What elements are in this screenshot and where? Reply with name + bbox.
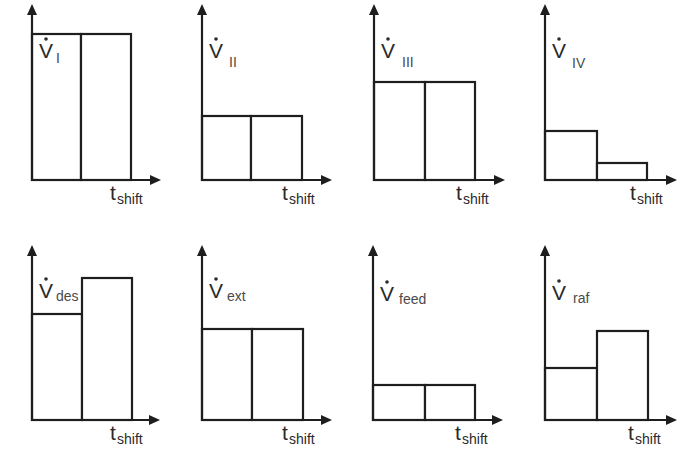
bar-III-2 (425, 82, 475, 180)
bar-des-2 (82, 278, 132, 420)
panel-III: VIIItshift (369, 4, 505, 207)
panel-IV: VIVtshift (540, 4, 677, 207)
y-axis-label: V (39, 39, 53, 62)
panels-group: VItshiftVIItshiftVIIItshiftVIVtshiftVdes… (27, 4, 677, 447)
flow-rate-diagram: VItshiftVIItshiftVIIItshiftVIVtshiftVdes… (0, 0, 695, 469)
x-axis-arrow-icon (492, 415, 503, 425)
y-axis-label-subscript: I (56, 50, 60, 66)
x-axis-label: t (628, 421, 634, 444)
bar-IV-2 (597, 163, 647, 180)
y-axis-arrow-icon (368, 245, 378, 256)
y-axis-label: V (381, 39, 395, 62)
panel-feed: Vfeedtshift (368, 245, 503, 447)
x-axis-label-subscript: shift (289, 431, 315, 447)
x-axis-label-subscript: shift (637, 191, 663, 207)
y-axis-label-subscript: des (56, 288, 79, 304)
x-axis-label: t (282, 181, 288, 204)
x-axis-label: t (282, 421, 288, 444)
y-axis-label-subscript: feed (399, 291, 426, 307)
dot-accent-icon (557, 279, 561, 283)
panel-I: VItshift (27, 4, 161, 207)
x-axis-label: t (455, 421, 461, 444)
bar-feed-2 (425, 385, 475, 420)
bar-feed-1 (373, 385, 425, 420)
y-axis-label-subscript: ext (227, 288, 246, 304)
x-axis-label-subscript: shift (117, 191, 143, 207)
x-axis-arrow-icon (494, 175, 505, 185)
y-axis-arrow-icon (369, 4, 379, 15)
y-axis-label-subscript: raf (573, 290, 589, 306)
y-axis-label: V (39, 279, 53, 302)
x-axis-arrow-icon (666, 175, 677, 185)
x-axis-label: t (630, 181, 636, 204)
y-axis-label-subscript: II (229, 54, 237, 70)
dot-accent-icon (557, 37, 561, 41)
x-axis-label-subscript: shift (463, 191, 489, 207)
bar-ext-1 (202, 329, 252, 420)
x-axis-label-subscript: shift (117, 431, 143, 447)
y-axis-label: V (209, 39, 223, 62)
y-axis-label-subscript: IV (572, 55, 586, 71)
y-axis-label: V (552, 281, 566, 304)
dot-accent-icon (44, 37, 48, 41)
y-axis-label: V (209, 279, 223, 302)
x-axis-label: t (110, 181, 116, 204)
x-axis-arrow-icon (150, 175, 161, 185)
bar-des-1 (32, 314, 82, 420)
bar-ext-2 (252, 329, 303, 420)
panel-ext: Vexttshift (197, 245, 332, 447)
bar-raf-1 (545, 368, 597, 420)
y-axis-label: V (552, 39, 566, 62)
dot-accent-icon (385, 280, 389, 284)
y-axis-label: V (380, 282, 394, 305)
x-axis-arrow-icon (321, 415, 332, 425)
bar-I-2 (81, 34, 131, 180)
bar-IV-1 (545, 131, 597, 180)
x-axis-label-subscript: shift (462, 431, 488, 447)
x-axis-arrow-icon (149, 415, 160, 425)
y-axis-arrow-icon (197, 4, 207, 15)
bar-II-2 (251, 116, 302, 180)
x-axis-arrow-icon (666, 415, 677, 425)
dot-accent-icon (214, 37, 218, 41)
x-axis-label-subscript: shift (289, 191, 315, 207)
panel-des: Vdestshift (27, 245, 160, 447)
y-axis-label-subscript: III (402, 54, 414, 70)
bar-raf-2 (597, 331, 648, 420)
dot-accent-icon (386, 37, 390, 41)
panel-II: VIItshift (197, 4, 332, 207)
y-axis-arrow-icon (540, 245, 550, 256)
bar-II-1 (202, 116, 251, 180)
y-axis-arrow-icon (197, 245, 207, 256)
y-axis-arrow-icon (540, 4, 550, 15)
y-axis-arrow-icon (27, 4, 37, 15)
dot-accent-icon (214, 277, 218, 281)
dot-accent-icon (44, 277, 48, 281)
y-axis-arrow-icon (27, 245, 37, 256)
panel-raf: Vraftshift (540, 245, 677, 447)
x-axis-label: t (110, 421, 116, 444)
x-axis-label-subscript: shift (635, 431, 661, 447)
x-axis-label: t (456, 181, 462, 204)
bar-III-1 (374, 82, 425, 180)
x-axis-arrow-icon (321, 175, 332, 185)
